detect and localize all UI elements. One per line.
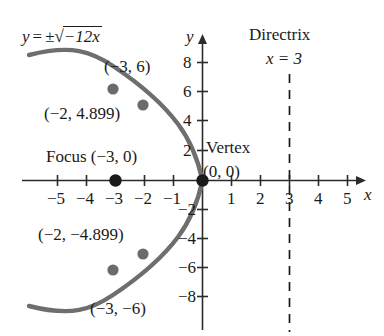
y-tick-label-2: 2 [183, 142, 192, 159]
point-neg3-6 [107, 83, 118, 94]
y-tick-label-4: 4 [183, 112, 192, 129]
x-tick-label-3: 3 [285, 190, 294, 207]
y-tick-label--2: −2 [178, 201, 196, 218]
x-tick-label--3: −3 [105, 190, 123, 207]
equation-equals: = [33, 27, 43, 46]
y-tick-label-8: 8 [183, 54, 192, 71]
annotation-point-neg3-neg6: (−3, −6) [90, 300, 146, 317]
x-tick-label-5: 5 [343, 190, 352, 207]
annotation-point-neg2-neg4899: (−2, −4.899) [38, 226, 124, 243]
x-tick-label-1: 1 [227, 190, 236, 207]
directrix-equation-label: x = 3 [266, 50, 302, 67]
vertex-label: Vertex [206, 139, 250, 156]
equation-label: y=±√−12x [22, 26, 102, 45]
x-tick-label--4: −4 [76, 190, 94, 207]
vertex-coords-label: (0, 0) [203, 163, 240, 180]
y-tick-label--4: −4 [178, 230, 196, 247]
point-neg2-4899 [137, 99, 148, 110]
point-neg3-neg6 [107, 264, 118, 275]
point-neg2-neg4899 [137, 248, 148, 259]
x-tick-label--5: −5 [47, 190, 65, 207]
directrix-label: Directrix [249, 26, 310, 43]
equation-radicand: −12x [63, 26, 102, 45]
x-axis-name: x [364, 186, 372, 203]
y-tick-label--8: −8 [178, 288, 196, 305]
x-tick-label-2: 2 [256, 190, 265, 207]
parabola-figure: y=±√−12x x y −5 −4 −3 −2 −1 1 2 3 4 5 8 … [0, 0, 384, 336]
y-axis-name: y [186, 28, 194, 45]
annotation-point-neg3-6: (−3, 6) [104, 58, 150, 75]
focus-point [109, 174, 121, 186]
y-tick-label-6: 6 [183, 83, 192, 100]
y-tick-label--6: −6 [178, 259, 196, 276]
x-tick-label--2: −2 [134, 190, 152, 207]
annotation-point-neg2-4899: (−2, 4.899) [44, 105, 120, 122]
x-axis [22, 175, 366, 186]
focus-label: Focus (−3, 0) [46, 148, 137, 165]
graph-canvas [0, 0, 384, 336]
x-tick-label-4: 4 [314, 190, 323, 207]
equation-lhs: y [22, 27, 30, 46]
